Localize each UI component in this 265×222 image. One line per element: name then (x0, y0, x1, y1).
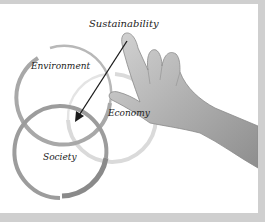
hand-image (109, 33, 258, 168)
society-label: Society (43, 152, 77, 162)
economy-label: Economy (108, 108, 150, 118)
title-label: Sustainability (89, 18, 159, 29)
image-frame: Sustainability Environment Economy Socie… (0, 4, 258, 213)
environment-label: Environment (31, 61, 90, 71)
